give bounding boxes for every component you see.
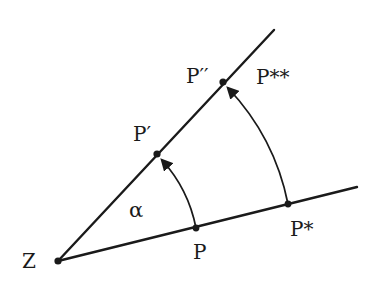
diagram-graphics xyxy=(0,0,382,301)
point-p-double-prime xyxy=(219,78,226,85)
arc-p-star-to-p-double-prime xyxy=(228,88,288,204)
label-p-prime: P′ xyxy=(133,124,151,144)
label-p-double-star: P** xyxy=(256,67,289,87)
point-z xyxy=(54,257,61,264)
rotation-diagram: Z P P* P′ P′′ P** α xyxy=(0,0,382,301)
point-p xyxy=(193,225,200,232)
point-p-star xyxy=(285,201,292,208)
label-z: Z xyxy=(22,251,36,271)
ray-upper xyxy=(58,30,274,261)
point-p-prime xyxy=(153,150,160,157)
label-p-double-prime: P′′ xyxy=(186,66,209,86)
label-p-star: P* xyxy=(290,219,313,239)
label-p: P xyxy=(193,242,206,262)
label-alpha: α xyxy=(129,200,143,221)
arc-p-to-p-prime xyxy=(162,160,196,228)
